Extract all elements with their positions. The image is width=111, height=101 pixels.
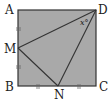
label-a: A xyxy=(4,3,14,17)
angle-x-label: x° xyxy=(80,18,89,27)
geometry-diagram: A D M B N C x° xyxy=(0,0,111,101)
label-d: D xyxy=(98,3,108,17)
label-c: C xyxy=(99,80,108,94)
label-b: B xyxy=(5,80,14,94)
label-m: M xyxy=(4,42,16,56)
label-n: N xyxy=(54,88,65,101)
